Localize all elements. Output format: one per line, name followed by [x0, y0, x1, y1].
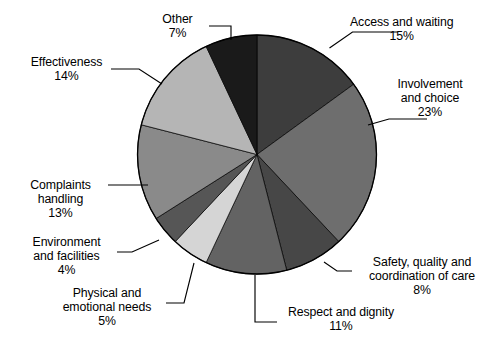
slice-label-text: Effectiveness	[22, 55, 111, 69]
slice-label-text: Respect and dignity	[277, 305, 405, 319]
slice-label-involvement-and-choice: Involvement and choice 23%	[380, 77, 480, 120]
slice-label-text-line2: coordination of care	[352, 269, 492, 283]
slice-label-text-line2: and facilities	[16, 249, 117, 263]
leader-line-environment	[117, 240, 159, 252]
slice-value-text: 4%	[16, 263, 117, 277]
leader-line-effectiveness	[111, 69, 162, 84]
pie-slices	[137, 35, 376, 274]
leader-line-other	[209, 26, 231, 40]
slice-value-text: 7%	[146, 26, 209, 40]
slice-value-text: 23%	[380, 105, 480, 119]
slice-label-safety-quality-coordination: Safety, quality and coordination of care…	[352, 255, 492, 298]
slice-label-complaints-handling: Complaints handling 13%	[13, 178, 108, 221]
leader-line-involvement	[368, 119, 427, 125]
slice-label-text: Environment	[16, 235, 117, 249]
leader-line-respect	[255, 275, 277, 322]
slice-label-text: Complaints	[13, 178, 108, 192]
slice-label-text: Physical and	[48, 286, 166, 300]
leader-line-physical	[166, 263, 194, 303]
slice-label-access-and-waiting: Access and waiting 15%	[350, 15, 453, 43]
slice-label-respect-and-dignity: Respect and dignity 11%	[277, 305, 405, 333]
slice-label-physical-and-emotional-needs: Physical and emotional needs 5%	[48, 286, 166, 329]
slice-value-text: 11%	[277, 319, 405, 333]
pie-chart-figure: Access and waiting 15% Involvement and c…	[0, 0, 492, 353]
slice-label-environment-and-facilities: Environment and facilities 4%	[16, 235, 117, 278]
slice-label-text: Other	[146, 12, 209, 26]
slice-value-text: 14%	[22, 69, 111, 83]
slice-value-text: 8%	[352, 283, 492, 297]
slice-label-text-line2: and choice	[380, 91, 480, 105]
slice-value-text: 13%	[13, 206, 108, 220]
slice-label-text-line2: emotional needs	[48, 300, 166, 314]
slice-label-text-line2: handling	[13, 192, 108, 206]
slice-label-effectiveness: Effectiveness 14%	[22, 55, 111, 83]
slice-label-text: Involvement	[380, 77, 480, 91]
slice-value-text: 15%	[350, 29, 453, 43]
slice-label-text: Access and waiting	[350, 15, 453, 29]
slice-label-text: Safety, quality and	[352, 255, 492, 269]
leader-line-safety	[324, 262, 352, 271]
slice-value-text: 5%	[48, 314, 166, 328]
slice-label-other: Other 7%	[146, 12, 209, 40]
